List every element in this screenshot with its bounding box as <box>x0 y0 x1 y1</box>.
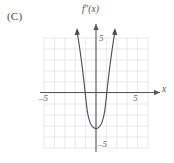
function-label: f″(x) <box>82 4 99 14</box>
tick-label-x-negative-5: –5 <box>39 93 48 103</box>
y-axis <box>93 24 98 152</box>
x-axis <box>40 90 160 95</box>
tick-label-y-negative-5: –5 <box>98 139 107 149</box>
tick-label-x-positive-5: 5 <box>133 93 138 103</box>
function-label-arg: (x) <box>88 4 99 14</box>
tick-label-y-positive-5: 5 <box>99 33 104 43</box>
graph-plot <box>0 0 174 163</box>
x-axis-label: x <box>162 84 166 94</box>
